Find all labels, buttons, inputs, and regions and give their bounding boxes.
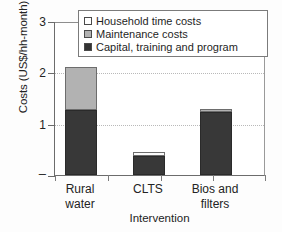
y-tick-2 <box>48 73 55 74</box>
y-tick-label-3: 3 <box>24 16 46 28</box>
y-tick-label-2: 2 <box>24 67 46 79</box>
x-tick-2 <box>161 175 162 181</box>
y-tick-3 <box>48 22 55 23</box>
legend-label-maintenance: Maintenance costs <box>96 28 188 40</box>
bar-segment-maintenance-rural-water <box>65 67 97 110</box>
y-tick-label-1: 1 <box>24 119 46 131</box>
x-category-bios-line2: filters <box>175 197 255 212</box>
legend-item-capital-training-program[interactable]: Capital, training and program <box>84 40 263 53</box>
x-tick-3 <box>213 175 214 181</box>
x-category-bios-line1: Bios and <box>175 182 255 197</box>
x-category-rural-water-line2: water <box>40 197 120 212</box>
bar-segment-household-clts <box>133 152 165 155</box>
frame-top-left-cap <box>55 22 79 23</box>
x-axis-title: Intervention <box>54 212 265 224</box>
chart-legend: Household time costs Maintenance costs C… <box>78 10 268 57</box>
chart-figure: Costs (US$/hh-month) 3 2 1 – <box>0 0 282 232</box>
legend-label-capital: Capital, training and program <box>96 41 238 53</box>
legend-label-household: Household time costs <box>96 15 201 27</box>
bar-segment-capital-clts <box>133 156 165 176</box>
x-category-bios-and-filters: Bios and filters <box>175 182 255 211</box>
x-tick-0 <box>55 175 56 181</box>
legend-swatch-capital-icon <box>84 43 92 51</box>
bar-segment-maintenance-bios-and-filters <box>200 109 232 112</box>
y-tick-label-0: – <box>24 168 46 180</box>
x-tick-1 <box>108 175 109 181</box>
x-tick-4 <box>265 175 266 181</box>
legend-swatch-household-icon <box>84 17 92 25</box>
legend-item-maintenance-costs[interactable]: Maintenance costs <box>84 27 263 40</box>
y-tick-1 <box>48 125 55 126</box>
legend-swatch-maintenance-icon <box>84 30 92 38</box>
bar-segment-capital-bios-and-filters <box>200 112 232 175</box>
bar-segment-capital-rural-water <box>65 110 97 175</box>
y-tick-0 <box>48 176 55 177</box>
legend-item-household-time-costs[interactable]: Household time costs <box>84 14 263 27</box>
